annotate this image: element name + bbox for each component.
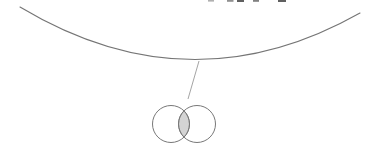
cropped-text-mark <box>208 0 214 2</box>
cropped-text-mark <box>278 0 286 2</box>
venn-intersection-region <box>179 111 190 137</box>
cropped-text-mark <box>253 0 259 2</box>
diagram-canvas <box>0 0 365 161</box>
large-boundary-arc <box>20 7 360 60</box>
cropped-text-mark <box>237 0 244 2</box>
cropped-text-remnants <box>208 0 286 2</box>
diagram-svg <box>0 0 365 161</box>
pointer-line <box>188 61 199 99</box>
cropped-text-mark <box>227 0 234 2</box>
